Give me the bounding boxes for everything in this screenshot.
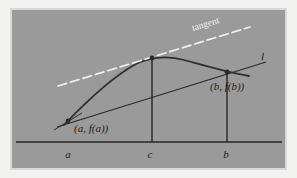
- axis-label-b: b: [223, 148, 229, 160]
- label-point-b: (b, f(b)): [210, 80, 245, 93]
- point-marker-a: [66, 119, 71, 124]
- axis-label-a: a: [65, 148, 71, 160]
- figure-container: a c b (a, f(a)) (b, f(b)) l tangent: [0, 0, 297, 178]
- label-secant-line: l: [261, 50, 264, 62]
- label-point-a: (a, f(a)): [74, 122, 109, 135]
- point-marker-b: [225, 70, 230, 75]
- mean-value-theorem-figure: a c b (a, f(a)) (b, f(b)) l tangent: [0, 0, 297, 178]
- axis-label-c: c: [148, 148, 153, 160]
- point-marker-c: [150, 56, 155, 61]
